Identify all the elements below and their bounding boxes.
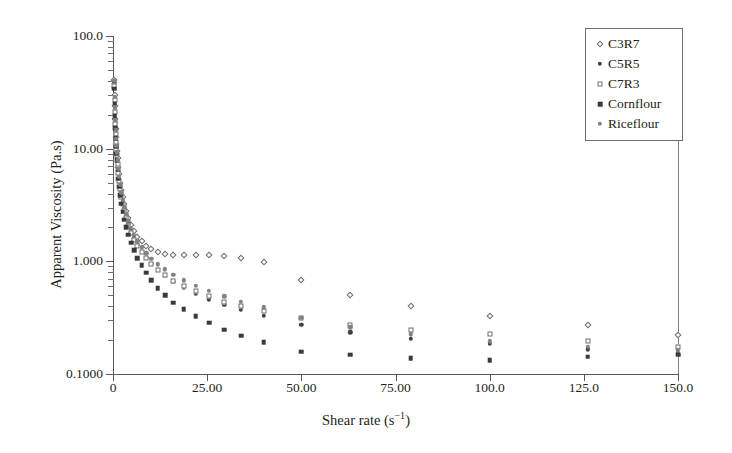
data-point: [585, 339, 590, 344]
data-point: [238, 254, 245, 261]
x-tick-label: 75.00: [356, 381, 436, 395]
y-tick-label: 1.000: [73, 254, 103, 268]
data-point: [298, 277, 305, 284]
data-point: [144, 251, 148, 255]
legend-marker: [598, 82, 603, 87]
data-point: [139, 263, 144, 268]
data-point: [124, 225, 129, 230]
x-tick-label: 125.0: [544, 381, 624, 395]
y-axis-title: Apparent Viscosity (Pa.s): [48, 65, 65, 365]
x-tick-label: 100.0: [450, 381, 530, 395]
x-axis-title-exponent: −1: [394, 410, 405, 421]
data-point: [207, 294, 212, 299]
data-point: [156, 286, 161, 291]
legend-label: C3R7: [608, 37, 640, 51]
data-point: [584, 322, 591, 329]
data-point: [408, 332, 412, 336]
x-axis-title: Shear rate (s−1): [0, 410, 732, 429]
data-point: [299, 349, 304, 354]
data-point: [194, 314, 199, 319]
data-point: [161, 251, 168, 258]
data-point: [221, 253, 228, 260]
legend-label: C7R3: [608, 77, 640, 91]
data-point: [194, 283, 198, 287]
data-point: [207, 288, 211, 292]
data-point: [181, 284, 186, 289]
data-point: [261, 309, 266, 314]
y-tick-label: 0.1000: [66, 367, 103, 381]
data-point: [348, 353, 353, 358]
grey-circle-icon: [593, 117, 607, 131]
data-point: [149, 262, 154, 267]
y-tick-label: 100.0: [73, 29, 103, 43]
data-point: [180, 251, 187, 258]
y-tick-label: 10.00: [73, 142, 103, 156]
data-point: [348, 325, 352, 329]
open-diamond-icon: [593, 37, 607, 51]
data-point: [112, 86, 117, 91]
data-point: [170, 251, 177, 258]
data-point: [348, 330, 352, 334]
x-tick-label: 25.00: [167, 381, 247, 395]
legend-item: Cornflour: [593, 94, 676, 114]
data-point: [207, 320, 212, 325]
data-point: [132, 248, 137, 253]
data-point: [135, 256, 140, 261]
x-tick-label: 150.0: [638, 381, 718, 395]
data-point: [192, 252, 199, 259]
data-point: [155, 267, 160, 272]
data-point: [239, 304, 244, 309]
data-point: [144, 256, 149, 261]
x-tick-label: 50.00: [261, 381, 341, 395]
data-point: [676, 353, 681, 358]
data-point: [408, 356, 413, 361]
data-point: [674, 332, 681, 339]
legend-item: C5R5: [593, 54, 676, 74]
data-point: [149, 278, 154, 283]
data-point: [163, 267, 167, 271]
data-point: [299, 322, 303, 326]
data-point: [585, 355, 590, 360]
data-point: [261, 340, 266, 345]
x-tick-label: 0: [73, 381, 153, 395]
legend-marker: [596, 40, 603, 47]
data-point: [239, 334, 244, 339]
legend-marker: [598, 62, 602, 66]
legend-label: C5R5: [608, 57, 640, 71]
data-point: [182, 307, 187, 312]
data-point: [408, 337, 412, 341]
data-point: [163, 293, 168, 298]
data-point: [222, 327, 227, 332]
legend-item: C7R3: [593, 74, 676, 94]
legend-label: Cornflour: [608, 97, 661, 111]
legend-marker: [598, 102, 603, 107]
filled-square-icon: [593, 97, 607, 111]
data-point: [162, 273, 167, 278]
data-point: [487, 358, 492, 363]
x-axis-title-base: Shear rate (s: [322, 412, 394, 428]
legend-item: C3R7: [593, 34, 676, 54]
chart-legend: C3R7C5R5C7R3CornflourRiceflour: [585, 28, 683, 141]
data-point: [407, 303, 414, 310]
data-point: [129, 241, 134, 246]
data-point: [193, 289, 198, 294]
data-point: [171, 273, 175, 277]
data-point: [171, 300, 176, 305]
open-square-icon: [593, 77, 607, 91]
data-point: [126, 233, 131, 238]
data-point: [149, 257, 153, 261]
chart-figure: Apparent Viscosity (Pa.s) 100.010.001.00…: [0, 0, 732, 453]
filled-circle-icon: [593, 57, 607, 71]
data-point: [154, 249, 161, 256]
data-point: [222, 299, 227, 304]
data-point: [139, 245, 143, 249]
legend-label: Riceflour: [608, 117, 659, 131]
data-point: [487, 332, 492, 337]
data-point: [347, 292, 354, 299]
data-point: [156, 262, 160, 266]
y-axis-title-wrap: Apparent Viscosity (Pa.s): [18, 46, 44, 366]
data-point: [171, 278, 176, 283]
legend-item: Riceflour: [593, 114, 676, 134]
data-point: [261, 313, 265, 317]
data-point: [486, 312, 493, 319]
